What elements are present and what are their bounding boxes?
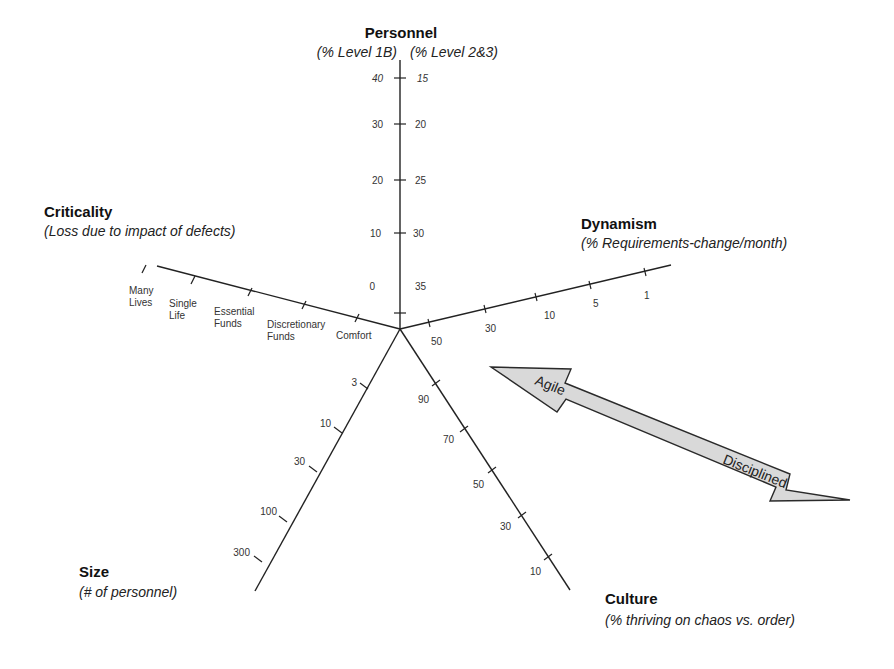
tick [279,516,287,522]
tick-label: Many [129,285,153,296]
size-axis [255,329,400,591]
agile-disciplined-arrow: Agile Disciplined [491,367,850,501]
tick [334,427,342,433]
tick-label: Single [169,298,197,309]
tick-label: 30 [294,456,306,467]
personnel-subtitle-right: (% Level 2&3) [410,44,498,60]
tick-label: 30 [485,323,497,334]
tick-label: 5 [593,298,599,309]
tick-label: 3 [351,377,357,388]
criticality-title: Criticality [44,203,113,220]
tick-label: 10 [370,228,382,239]
tick [309,466,317,472]
personnel-title: Personnel [365,24,438,41]
criticality-subtitle: (Loss due to impact of defects) [44,223,235,239]
tick [142,265,146,273]
tick-label: 100 [260,506,277,517]
tick-label: 15 [417,73,429,84]
tick-label: 30 [372,119,384,130]
tick-label: 40 [372,73,384,84]
tick-label: 50 [473,479,485,490]
dynamism-title: Dynamism [581,215,657,232]
tick-label: 300 [233,547,250,558]
tick-label: Discretionary [267,319,325,330]
tick [544,554,552,560]
home-ground-polar-chart: Personnel (% Level 1B) (% Level 2&3) 40 … [0,0,894,669]
tick-label: Comfort [336,330,372,341]
tick [254,556,262,562]
dynamism-subtitle: (% Requirements-change/month) [581,235,787,251]
tick-label: 1 [644,290,650,301]
tick-label: 25 [415,175,427,186]
size-title: Size [79,563,109,580]
tick-label: 0 [369,281,375,292]
tick-label: Life [169,310,186,321]
tick-label: 20 [372,175,384,186]
tick-label: 50 [431,336,443,347]
culture-subtitle: (% thriving on chaos vs. order) [605,612,795,628]
tick-label: Lives [129,297,152,308]
tick-label: 90 [418,394,430,405]
tick-label: Funds [214,318,242,329]
tick-label: 70 [443,434,455,445]
tick-label: 30 [413,228,425,239]
tick-label: 10 [530,566,542,577]
personnel-subtitle-left: (% Level 1B) [317,44,397,60]
tick-label: 10 [544,310,556,321]
tick-label: Funds [267,331,295,342]
tick [191,276,195,284]
size-subtitle: (# of personnel) [79,584,177,600]
tick-label: 10 [320,418,332,429]
tick-label: 20 [415,119,427,130]
tick-label: 30 [500,521,512,532]
culture-title: Culture [605,590,658,607]
tick-label: Essential [214,306,255,317]
tick [360,383,368,389]
tick [488,467,496,473]
tick-label: 35 [415,281,427,292]
